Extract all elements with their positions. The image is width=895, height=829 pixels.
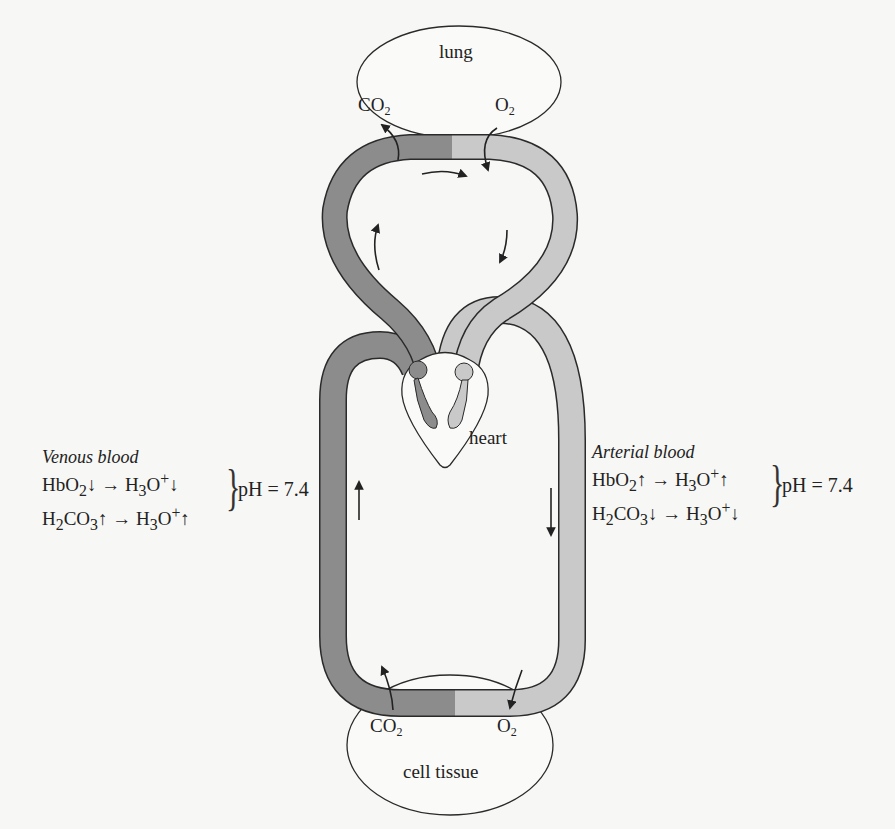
- arterial-blood-title: Arterial blood: [592, 441, 740, 463]
- arterial-eq-line-1: HbO2↑ → H3O+↑: [592, 463, 740, 497]
- arterial-eq-line-2: H2CO3↓ → H3O+↓: [592, 497, 740, 531]
- venous-eq-line-1: HbO2↓ → H3O+↓: [42, 468, 190, 502]
- venous-ph-value: pH = 7.4: [238, 478, 309, 501]
- heart-shape: [402, 353, 488, 468]
- venous-blood-equations: Venous blood HbO2↓ → H3O+↓ H2CO3↑ → H3O+…: [42, 446, 190, 536]
- tissue-co2-label: CO2: [370, 716, 402, 735]
- arterial-ph-value: pH = 7.4: [782, 474, 853, 497]
- venous-blood-title: Venous blood: [42, 446, 190, 468]
- pulmonary-right-down-arrow: [500, 230, 507, 262]
- lung-o2-label: O2: [495, 95, 515, 114]
- lung-co2-label: CO2: [358, 95, 390, 114]
- arterial-blood-equations: Arterial blood HbO2↑ → H3O+↑ H2CO3↓ → H3…: [592, 441, 740, 531]
- lung-label: lung: [439, 42, 473, 61]
- pulmonary-top-right-arrow: [422, 171, 466, 176]
- circulation-diagram: [0, 0, 895, 829]
- venous-eq-line-2: H2CO3↑ → H3O+↑: [42, 502, 190, 536]
- heart-label: heart: [469, 428, 507, 447]
- tissue-label: cell tissue: [403, 762, 478, 781]
- pulmonary-left-up-arrow: [375, 225, 379, 270]
- tissue-o2-label: O2: [497, 716, 517, 735]
